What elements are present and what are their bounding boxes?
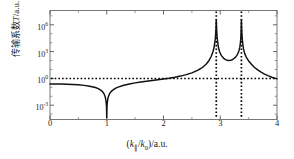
y-axis-label-symbol: T: [11, 16, 21, 21]
y-tick-label: 100: [24, 73, 48, 85]
y-tick-label: 10-3: [24, 100, 48, 112]
x-tick-label: 2: [154, 119, 174, 128]
x-axis-tick-labels: 01234: [0, 119, 294, 133]
plot-frame: [50, 11, 277, 120]
y-axis-label-cn: 传输系数: [11, 21, 21, 57]
chart-figure: 10610310010-3 01234 传输系数T/a.u. (k∥/k0)/a…: [0, 0, 294, 159]
y-axis-label-unit: /a.u.: [11, 1, 21, 17]
x-tick-label: 3: [210, 119, 230, 128]
x-tick-label: 0: [40, 119, 60, 128]
y-axis-label: 传输系数T/a.u.: [9, 0, 23, 72]
x-tick-label: 1: [97, 119, 117, 128]
y-tick-label: 106: [24, 20, 48, 32]
x-axis-label: (k∥/k0)/a.u.: [0, 139, 294, 152]
x-axis-label-close: )/a.u.: [148, 139, 168, 149]
x-tick-label: 4: [267, 119, 287, 128]
y-tick-label: 103: [24, 47, 48, 59]
